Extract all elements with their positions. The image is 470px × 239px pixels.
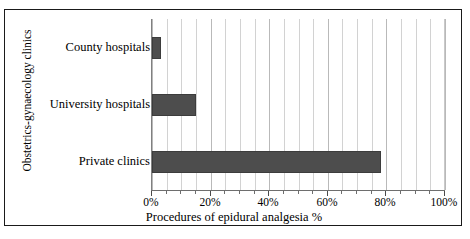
- gridline-80: [386, 19, 387, 190]
- x-axis-tick-10: [180, 191, 181, 194]
- category-axis-labels: County hospitals University hospitals Pr…: [23, 19, 150, 190]
- x-axis-tick-55: [312, 191, 313, 194]
- x-axis-tick-35: [254, 191, 255, 194]
- gridline-95: [430, 19, 431, 190]
- category-label-university-hospitals: University hospitals: [25, 97, 150, 111]
- x-tick-label-100pct: 100%: [420, 196, 468, 209]
- gridline-85: [401, 19, 402, 190]
- gridline-100: [445, 19, 446, 190]
- x-axis-tick-75: [371, 191, 372, 194]
- x-axis-tick-45: [283, 191, 284, 194]
- bar-university-hospitals[interactable]: [152, 94, 196, 116]
- x-axis-tick-5: [166, 191, 167, 194]
- x-axis-tick-15: [195, 191, 196, 194]
- x-tick-label-40pct: 40%: [244, 196, 292, 209]
- x-tick-label-20pct: 20%: [186, 196, 234, 209]
- x-axis-tick-65: [341, 191, 342, 194]
- bar-private-clinics[interactable]: [152, 151, 381, 173]
- gridline-90: [416, 19, 417, 190]
- x-axis-tick-25: [224, 191, 225, 194]
- x-axis-tick-85: [400, 191, 401, 194]
- plot-area: [151, 19, 445, 190]
- x-tick-label-80pct: 80%: [361, 196, 409, 209]
- category-label-county-hospitals: County hospitals: [25, 40, 150, 54]
- x-axis-line: [151, 190, 445, 195]
- x-axis-title: Procedures of epidural analgesia %: [5, 210, 463, 225]
- x-axis-tick-30: [239, 191, 240, 194]
- x-axis-tick-95: [429, 191, 430, 194]
- x-axis-tick-70: [356, 191, 357, 194]
- x-axis-tick-90: [415, 191, 416, 194]
- category-label-private-clinics: Private clinics: [25, 154, 150, 168]
- x-tick-label-0pct: 0%: [127, 196, 175, 209]
- x-tick-label-60pct: 60%: [303, 196, 351, 209]
- x-axis-tick-50: [298, 191, 299, 194]
- bar-county-hospitals[interactable]: [152, 37, 161, 59]
- chart-figure: Obstetrics-gynaecology clinics County ho…: [4, 9, 462, 226]
- x-axis-tick-labels: 0%20%40%60%80%100%: [151, 196, 445, 210]
